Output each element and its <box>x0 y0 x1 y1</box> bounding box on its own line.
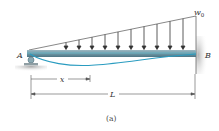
figure-caption: (a) <box>106 114 116 123</box>
load-intensity-label: w0 <box>194 8 205 18</box>
distributed-load <box>29 16 196 50</box>
fixed-wall-support <box>196 16 208 74</box>
label-b: B <box>204 51 211 60</box>
label-a: A <box>16 51 23 60</box>
beam-diagram: w0 A B x L (a) <box>0 0 219 131</box>
label-l: L <box>109 90 115 99</box>
label-x: x <box>60 75 65 84</box>
